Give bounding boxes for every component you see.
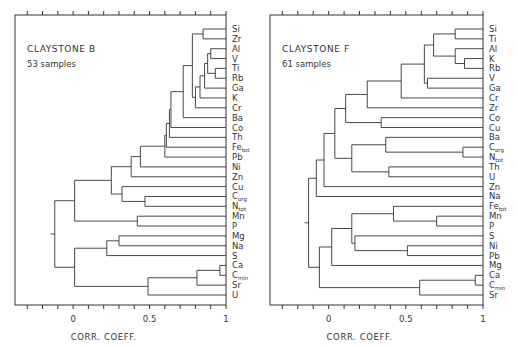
leaf-label: Co — [489, 113, 500, 123]
panel-title: CLAYSTONE F — [282, 44, 350, 54]
leaf-label: Mn — [232, 211, 245, 221]
dendrogram-link — [346, 94, 382, 122]
leaf-label: Sr — [232, 280, 241, 290]
dendrogram-link — [355, 236, 483, 251]
dendrogram-link — [407, 246, 483, 256]
leaf-label: Rb — [232, 73, 243, 83]
dendrogram-link — [192, 34, 203, 97]
dendrogram-link — [137, 216, 226, 226]
leaf-label: Pb — [232, 152, 243, 162]
leaf-label: Ba — [489, 132, 500, 142]
leaf-label: U — [232, 290, 238, 300]
leaf-label: V — [232, 54, 238, 64]
dendrogram-link — [107, 241, 226, 256]
leaf-label: Th — [231, 132, 243, 142]
dendrogram-link — [208, 54, 216, 74]
dendrogram-figure: 00.51CORR. COEFF.CLAYSTONE B53 samplesSi… — [0, 0, 518, 346]
dendrogram-link — [119, 236, 226, 246]
dendrogram-link — [148, 278, 226, 295]
leaf-label: Co — [232, 123, 243, 133]
leaf-label: Zn — [232, 172, 243, 182]
dendrogram-link — [169, 110, 226, 138]
leaf-label: Zr — [489, 103, 499, 113]
leaf-label: Zr — [232, 34, 242, 44]
dendrogram-link — [352, 214, 394, 244]
dendrogram-link — [220, 265, 226, 275]
dendrogram-link — [55, 201, 75, 268]
leaf-label: Ga — [489, 83, 501, 93]
dendrogram-link — [215, 68, 226, 78]
leaf-label: Cu — [489, 123, 500, 133]
dendrogram-link — [367, 81, 483, 108]
x-tick-label: 1 — [480, 314, 485, 324]
dendrogram-link — [197, 270, 226, 285]
dendrogram-panel-left: 00.51CORR. COEFF.CLAYSTONE B53 samplesSi… — [15, 11, 250, 342]
leaf-label: Zn — [489, 182, 500, 192]
leaf-label: Cr — [232, 103, 242, 113]
leaf-label: Mn — [489, 211, 502, 221]
dendrogram-link — [389, 167, 483, 177]
dendrogram-link — [386, 137, 483, 152]
leaf-label: K — [489, 54, 495, 64]
dendrogram-link — [140, 146, 226, 167]
dendrogram-link — [464, 59, 483, 69]
dendrogram-link — [381, 118, 483, 128]
dendrogram-link — [335, 109, 352, 159]
leaf-label: Si — [489, 24, 497, 34]
dendrogram-link — [455, 49, 483, 64]
leaf-label: Ca — [489, 270, 500, 280]
leaf-label: Ti — [488, 34, 496, 44]
dendrogram-link — [203, 29, 226, 39]
dendrogram-link — [211, 49, 226, 59]
dendrogram-link — [424, 45, 433, 83]
dendrogram-link — [145, 196, 226, 206]
dendrogram-link — [455, 29, 483, 39]
dendrogram-link — [475, 275, 483, 285]
leaf-label: K — [232, 93, 238, 103]
dendrogram-link — [434, 34, 456, 56]
leaf-label: Si — [232, 24, 240, 34]
dendrogram-link — [324, 133, 483, 186]
dendrogram-link — [122, 187, 226, 202]
leaf-label: Th — [488, 162, 500, 172]
leaf-label: Ni — [232, 162, 241, 172]
dendrogram-panel-right: 00.51CORR. COEFF.CLAYSTONE F61 samplesSi… — [270, 11, 507, 342]
dendrogram-link — [316, 160, 483, 196]
leaf-label: Pb — [489, 251, 500, 261]
sample-count: 61 samples — [282, 59, 331, 69]
leaf-label: V — [489, 73, 495, 83]
dendrogram-link — [165, 135, 226, 157]
leaf-label: Sr — [489, 290, 498, 300]
dendrogram-link — [75, 248, 148, 286]
leaf-label: Ni — [489, 241, 498, 251]
leaf-label: U — [489, 172, 495, 182]
leaf-label: Rb — [489, 63, 500, 73]
dendrogram-link — [352, 145, 389, 172]
leaf-label: Na — [489, 191, 501, 201]
leaf-label: S — [489, 231, 494, 241]
x-axis-label: CORR. COEFF. — [71, 332, 137, 342]
leaf-label: P — [232, 221, 237, 231]
sample-count: 53 samples — [27, 59, 76, 69]
leaf-label: Al — [489, 44, 497, 54]
x-tick-label: 0.5 — [399, 314, 413, 324]
dendrogram-link — [427, 78, 483, 88]
leaf-label: Ti — [231, 63, 239, 73]
dendrogram-link — [463, 147, 483, 157]
dendrogram-link — [166, 123, 226, 147]
x-tick-label: 0 — [70, 314, 75, 324]
leaf-label: Cr — [489, 93, 499, 103]
panel-title: CLAYSTONE B — [27, 44, 96, 54]
dendrogram-link — [319, 247, 419, 288]
leaf-label: Ca — [232, 260, 243, 270]
dendrogram-link — [111, 167, 131, 194]
dendrogram-link — [401, 64, 483, 98]
dendrogram-link — [393, 206, 483, 221]
x-tick-label: 0.5 — [143, 314, 157, 324]
leaf-label: Cu — [232, 182, 243, 192]
x-tick-label: 1 — [223, 314, 228, 324]
x-axis-label: CORR. COEFF. — [327, 332, 393, 342]
leaf-label: Mg — [232, 231, 245, 241]
leaf-label: Mg — [489, 260, 502, 270]
dendrogram-link — [420, 280, 483, 295]
